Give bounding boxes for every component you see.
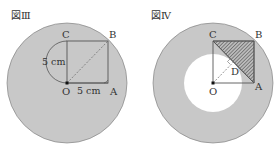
figure-4-title: 図Ⅳ (151, 10, 172, 21)
label-c: C (62, 29, 70, 40)
label-b: B (109, 29, 116, 40)
center-point-o (66, 82, 69, 85)
label-a: A (109, 86, 118, 97)
label-o: O (62, 86, 70, 97)
figure-3: 図Ⅲ C B O A 5 cm 5 cm (0, 0, 138, 157)
label-b: B (255, 29, 262, 40)
figure-3-title: 図Ⅲ (11, 10, 31, 21)
label-a: A (254, 81, 263, 92)
dimension-label-horizontal: 5 cm (77, 85, 100, 96)
label-c: C (209, 29, 217, 40)
figure-4: 図Ⅳ C B O A D (138, 0, 276, 157)
dimension-label-vertical: 5 cm (42, 56, 65, 67)
label-o: O (209, 86, 217, 97)
center-point-o (212, 82, 215, 85)
label-d: D (231, 66, 239, 77)
